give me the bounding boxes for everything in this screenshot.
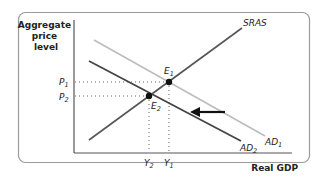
- e1-point: [166, 79, 172, 85]
- diagram-svg: Aggregate price level Real GDP SRAS AD1 …: [0, 0, 323, 184]
- sras-label: SRAS: [243, 18, 267, 28]
- e2-point: [146, 93, 152, 99]
- ad-as-diagram: Aggregate price level Real GDP SRAS AD1 …: [0, 0, 323, 184]
- x-axis-label: Real GDP: [251, 163, 298, 173]
